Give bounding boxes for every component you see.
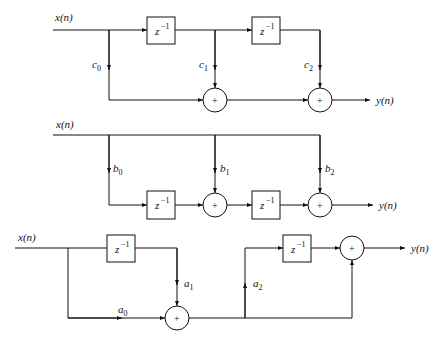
coef-a1: a1 <box>184 277 194 292</box>
output-label: y(n) <box>375 94 394 107</box>
svg-text:z: z <box>154 25 160 37</box>
delay-box: z −1 <box>147 17 175 44</box>
svg-text:+: + <box>317 200 323 211</box>
input-label: x(n) <box>17 231 36 244</box>
adder: + <box>308 88 332 112</box>
delay-box: z −1 <box>252 17 280 44</box>
diagram-2: x(n) z −1 + z −1 + y(n) b0 b1 <box>53 118 397 219</box>
svg-text:−1: −1 <box>161 196 170 205</box>
svg-text:+: + <box>174 313 180 324</box>
coef-c2: c2 <box>304 58 313 73</box>
delay-box: z −1 <box>107 235 135 262</box>
delay-box: z −1 <box>252 191 280 219</box>
input-label: x(n) <box>55 118 74 131</box>
coef-a2: a2 <box>253 277 263 292</box>
svg-text:−1: −1 <box>161 22 170 31</box>
coef-a0: a0 <box>118 303 128 318</box>
adder: + <box>308 193 332 217</box>
input-label: x(n) <box>54 11 73 24</box>
adder: + <box>165 306 189 330</box>
output-label: y(n) <box>378 199 397 212</box>
delay-box: z −1 <box>283 235 311 262</box>
svg-text:z: z <box>259 199 265 211</box>
svg-text:+: + <box>212 200 218 211</box>
coef-b2: b2 <box>325 162 335 177</box>
output-label: y(n) <box>410 242 429 255</box>
svg-text:z: z <box>259 25 265 37</box>
svg-text:−1: −1 <box>266 196 275 205</box>
adder: + <box>340 236 364 260</box>
delay-box: z −1 <box>147 191 175 219</box>
svg-text:−1: −1 <box>121 240 130 249</box>
diagram-1: x(n) z −1 z −1 + + y(n) c0 <box>53 11 394 112</box>
coef-b0: b0 <box>113 162 123 177</box>
diagram-3: x(n) z −1 + z −1 + y(n) a0 a1 <box>15 231 429 330</box>
svg-text:−1: −1 <box>266 22 275 31</box>
svg-text:+: + <box>317 95 323 106</box>
coef-c1: c1 <box>199 58 208 73</box>
svg-text:+: + <box>349 243 355 254</box>
svg-text:z: z <box>114 243 120 255</box>
coef-b1: b1 <box>220 162 230 177</box>
svg-text:z: z <box>290 243 296 255</box>
adder: + <box>203 88 227 112</box>
svg-text:−1: −1 <box>297 240 306 249</box>
svg-text:z: z <box>154 199 160 211</box>
coef-c0: c0 <box>92 58 101 73</box>
svg-text:+: + <box>212 95 218 106</box>
adder: + <box>203 193 227 217</box>
block-diagrams: x(n) z −1 z −1 + + y(n) c0 <box>0 0 443 343</box>
